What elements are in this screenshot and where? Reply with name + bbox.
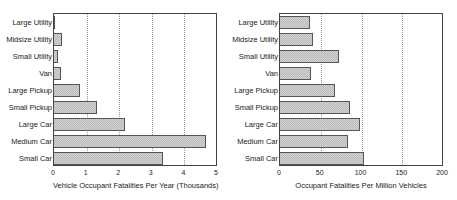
x-tick-label: 150 <box>391 169 411 176</box>
bar <box>280 101 350 114</box>
category-label: Van <box>265 65 278 82</box>
x-tick-label: 5 <box>206 169 226 176</box>
category-label: Large Car <box>245 116 278 133</box>
bar <box>280 152 364 165</box>
x-tick-label: 200 <box>432 169 452 176</box>
category-label: Large Utility <box>238 14 278 31</box>
bar <box>280 33 313 46</box>
bar <box>280 50 339 63</box>
gridline <box>362 14 363 165</box>
bar <box>280 16 310 29</box>
category-label: Medium Car <box>11 133 52 150</box>
bar <box>54 101 97 114</box>
x-tick-label: 1 <box>76 169 96 176</box>
category-label: Large Pickup <box>8 82 52 99</box>
category-label: Large Utility <box>12 14 52 31</box>
x-axis-title: Occupant Fatalities Per Million Vehicles <box>279 181 443 190</box>
category-label: Van <box>39 65 52 82</box>
bar <box>54 67 61 80</box>
x-tick-label: 0 <box>43 169 63 176</box>
category-label: Small Pickup <box>235 99 278 116</box>
category-label: Small Pickup <box>9 99 52 116</box>
bar <box>54 84 80 97</box>
x-tick-label: 4 <box>173 169 193 176</box>
category-label: Large Pickup <box>234 82 278 99</box>
bar <box>280 118 360 131</box>
category-label: Medium Car <box>237 133 278 150</box>
category-label: Large Car <box>19 116 52 133</box>
category-label: Small Car <box>245 150 278 167</box>
category-label: Small Car <box>19 150 52 167</box>
plot-area: Large UtilityMidsize UtilitySmall Utilit… <box>53 13 217 166</box>
category-label: Small Utility <box>239 48 278 65</box>
x-tick-label: 100 <box>351 169 371 176</box>
bar <box>280 67 311 80</box>
bar <box>54 135 206 148</box>
bar <box>54 50 58 63</box>
category-label: Midsize Utility <box>232 31 278 48</box>
bar <box>280 135 348 148</box>
gridline <box>402 14 403 165</box>
x-tick-label: 2 <box>108 169 128 176</box>
x-tick-label: 0 <box>269 169 289 176</box>
x-axis-title: Vehicle Occupant Fatalities Per Year (Th… <box>53 181 217 190</box>
x-tick-label: 3 <box>141 169 161 176</box>
plot-area: Large UtilityMidsize UtilitySmall Utilit… <box>279 13 443 166</box>
bar <box>54 16 55 29</box>
bar <box>54 118 125 131</box>
bar <box>54 33 62 46</box>
category-label: Small Utility <box>13 48 52 65</box>
category-label: Midsize Utility <box>6 31 52 48</box>
bar <box>54 152 163 165</box>
bar <box>280 84 335 97</box>
x-tick-label: 50 <box>310 169 330 176</box>
